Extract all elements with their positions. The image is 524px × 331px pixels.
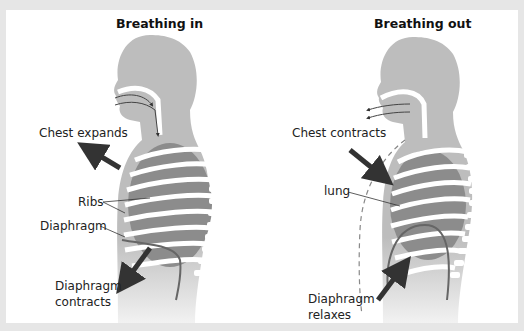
label-chest-contracts: Chest contracts	[292, 126, 386, 141]
label-diaphragm-relaxes-1: Diaphragm	[308, 292, 375, 307]
label-diaphragm-contracts-1: Diaphragm	[55, 279, 122, 294]
panel-title-breathing-in: Breathing in	[116, 16, 203, 31]
label-diaphragm: Diaphragm	[40, 219, 107, 234]
chest-contracts-arrow	[350, 150, 382, 176]
label-diaphragm-contracts-2: contracts	[55, 295, 111, 310]
chest-expands-arrow	[90, 150, 120, 168]
label-lung: lung	[324, 184, 350, 199]
panel-title-breathing-out: Breathing out	[374, 16, 471, 31]
breathing-out-figure	[348, 37, 479, 323]
label-ribs: Ribs	[78, 195, 104, 210]
label-chest-expands: Chest expands	[39, 126, 128, 141]
label-diaphragm-relaxes-2: relaxes	[308, 308, 351, 323]
